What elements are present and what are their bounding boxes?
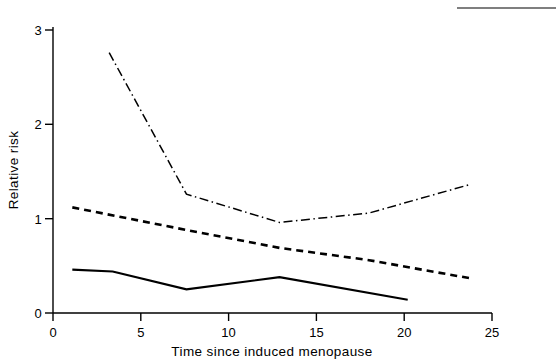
- chart-figure: 0 1 2 3 0 5 10 15 20 25 Time since induc…: [0, 0, 560, 364]
- x-tick-label-10: 10: [221, 325, 235, 340]
- y-tick-marks: [45, 30, 53, 313]
- x-tick-label-25: 25: [485, 325, 499, 340]
- series-line-solid: [72, 270, 407, 300]
- chart-plot-area: 0 1 2 3 0 5 10 15 20 25 Time since induc…: [0, 0, 560, 364]
- x-tick-label-0: 0: [49, 325, 56, 340]
- x-axis-title: Time since induced menopause: [171, 344, 372, 359]
- x-tick-label-15: 15: [309, 325, 323, 340]
- y-axis-title: Relative risk: [6, 131, 21, 210]
- x-tick-label-5: 5: [137, 325, 144, 340]
- y-tick-label-1: 1: [34, 212, 41, 227]
- series-line-dashed: [72, 207, 469, 278]
- y-tick-label-2: 2: [34, 117, 41, 132]
- series-line-dash-dot: [109, 53, 469, 223]
- y-tick-label-3: 3: [34, 23, 41, 38]
- x-tick-marks: [53, 313, 492, 321]
- y-tick-label-0: 0: [34, 306, 41, 321]
- x-tick-label-20: 20: [397, 325, 411, 340]
